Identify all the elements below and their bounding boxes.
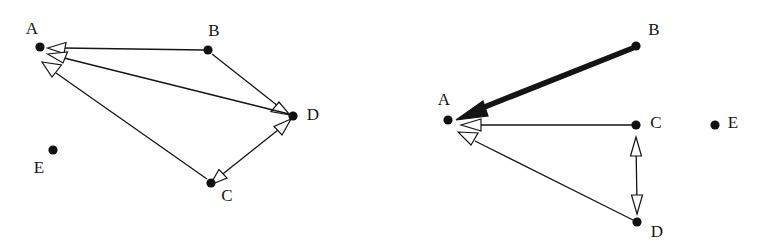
node-label: B xyxy=(208,21,219,40)
right-panel-nodes: A B C D E xyxy=(438,20,738,241)
graph-canvas: A B C D E xyxy=(0,0,763,249)
figure-root: A B C D E xyxy=(0,0,763,249)
arrow-head-icon xyxy=(48,52,68,63)
arrow-head-icon xyxy=(632,195,643,214)
edge-line xyxy=(56,73,207,179)
left-panel: A B C D E xyxy=(26,19,319,205)
node-C[interactable]: C xyxy=(631,113,661,132)
node-dot[interactable] xyxy=(443,115,452,124)
edge-B-to-A xyxy=(456,48,633,120)
node-dot[interactable] xyxy=(631,120,640,129)
node-B[interactable]: B xyxy=(203,21,219,55)
node-dot[interactable] xyxy=(206,178,215,187)
node-label: D xyxy=(651,222,663,241)
arrow-head-icon xyxy=(631,137,642,156)
node-A[interactable]: A xyxy=(438,90,453,125)
edge-line xyxy=(212,54,278,106)
node-dot[interactable] xyxy=(35,42,44,51)
node-E[interactable]: E xyxy=(710,113,738,132)
node-dot[interactable] xyxy=(631,41,640,50)
node-B[interactable]: B xyxy=(631,20,659,51)
node-label: C xyxy=(221,186,232,205)
right-panel-edges xyxy=(456,48,643,220)
node-C[interactable]: C xyxy=(206,178,232,205)
arrow-head-icon xyxy=(274,119,291,135)
node-dot[interactable] xyxy=(632,217,641,226)
edge-line xyxy=(63,48,204,50)
edge-D-to-A xyxy=(458,132,633,220)
node-dot[interactable] xyxy=(48,145,57,154)
edge-B-to-A xyxy=(48,43,205,54)
node-label: E xyxy=(34,158,44,177)
right-panel: A B C D E xyxy=(438,20,738,241)
edge-line xyxy=(64,58,289,114)
node-D[interactable]: D xyxy=(632,217,663,241)
edge-line xyxy=(475,141,633,220)
left-panel-edges xyxy=(42,43,291,186)
edge-C-to-A xyxy=(42,62,207,179)
node-E[interactable]: E xyxy=(34,145,58,177)
node-label: A xyxy=(26,19,39,38)
arrow-head-icon xyxy=(461,119,481,131)
node-label: E xyxy=(728,113,738,132)
node-label: C xyxy=(650,113,661,132)
node-D[interactable]: D xyxy=(288,105,319,124)
node-dot[interactable] xyxy=(288,111,297,120)
node-dot[interactable] xyxy=(203,45,212,54)
arrow-head-icon xyxy=(458,132,478,145)
arrow-head-icon xyxy=(456,101,488,120)
node-label: A xyxy=(438,90,451,109)
node-A[interactable]: A xyxy=(26,19,45,52)
edge-C-to-D xyxy=(631,137,643,214)
edge-D-to-A xyxy=(48,52,290,114)
node-dot[interactable] xyxy=(710,120,719,129)
edge-C-to-A xyxy=(461,119,632,131)
edge-line xyxy=(219,126,283,177)
node-label: B xyxy=(648,20,659,39)
edge-C-to-D xyxy=(210,119,291,185)
node-label: D xyxy=(307,105,319,124)
edge-B-to-D xyxy=(212,54,290,115)
edge-line xyxy=(477,48,633,110)
